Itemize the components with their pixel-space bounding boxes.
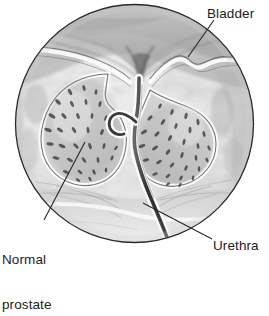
label-urethra: Urethra	[213, 238, 259, 253]
label-normal-prostate: Normal prostate	[2, 222, 52, 316]
label-normal-prostate-line2: prostate	[2, 297, 52, 312]
label-bladder: Bladder	[207, 6, 254, 21]
label-normal-prostate-line1: Normal	[2, 252, 52, 267]
